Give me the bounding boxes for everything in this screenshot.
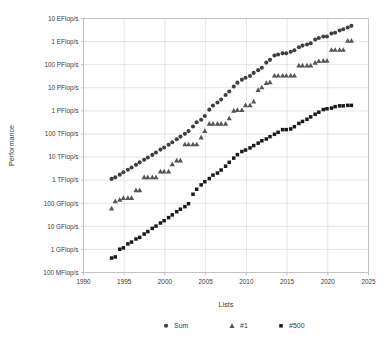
data-point [224, 93, 228, 97]
data-point [203, 180, 207, 184]
data-point [227, 89, 231, 93]
data-point [276, 131, 280, 135]
series-sum [110, 24, 354, 181]
data-point [349, 38, 354, 43]
data-point [113, 175, 117, 179]
data-point [219, 121, 224, 126]
data-point [252, 144, 256, 148]
data-point [243, 76, 247, 80]
data-point [118, 173, 122, 177]
data-point [297, 45, 301, 49]
data-point [240, 150, 244, 154]
y-tick-label: 10 PFlop/s [48, 84, 79, 92]
data-point [137, 188, 142, 193]
data-point [231, 108, 236, 113]
data-point [305, 42, 309, 46]
data-point [285, 128, 289, 131]
x-tick-label: 2020 [321, 278, 336, 285]
data-point [228, 161, 232, 165]
data-point [199, 135, 204, 140]
data-point [109, 206, 114, 211]
data-point [252, 71, 256, 75]
data-point [151, 227, 155, 231]
data-point [265, 137, 269, 141]
data-point [309, 115, 313, 119]
data-point [289, 50, 293, 54]
data-point [293, 125, 297, 128]
data-point [121, 195, 126, 200]
data-point [341, 47, 346, 52]
data-point [297, 122, 301, 126]
data-point [142, 232, 146, 236]
data-point [203, 114, 207, 118]
data-point [170, 162, 175, 167]
data-point [281, 128, 285, 131]
data-point [281, 51, 285, 55]
data-point [325, 107, 329, 111]
y-tick-label: 100 GFlop/s [44, 200, 79, 208]
data-point [211, 173, 215, 177]
data-point [236, 153, 240, 157]
data-point [154, 150, 158, 154]
data-point [292, 73, 297, 78]
data-point [305, 118, 309, 122]
x-tick-label: 2005 [199, 278, 214, 285]
data-point [341, 27, 345, 31]
data-point [219, 168, 223, 172]
y-tick-label: 10 GFlop/s [47, 223, 78, 231]
performance-development-chart: 100 MFlop/s1 GFlop/s10 GFlop/s100 GFlop/… [0, 0, 384, 342]
data-point [146, 230, 150, 234]
data-point [338, 104, 342, 108]
data-point [219, 97, 223, 101]
y-tick-label: 10 EFlop/s [48, 15, 79, 23]
legend-marker-num1 [229, 323, 234, 328]
data-point [256, 68, 260, 72]
legend-marker-sum [164, 324, 168, 328]
legend-label-num1: #1 [240, 322, 248, 329]
data-point [113, 198, 118, 203]
y-tick-label: 1 GFlop/s [51, 246, 79, 254]
data-point [183, 205, 187, 209]
x-tick-label: 2025 [361, 278, 376, 285]
data-point [349, 24, 353, 28]
data-point [284, 51, 288, 55]
data-point [321, 35, 325, 39]
data-point [208, 177, 212, 181]
data-point [134, 237, 138, 241]
data-point [276, 73, 281, 78]
data-point [166, 169, 171, 174]
data-point [150, 153, 154, 157]
legend: Sum#1#500 [164, 322, 305, 329]
data-point [256, 141, 260, 145]
data-point [273, 133, 277, 137]
legend-label-num500: #500 [289, 322, 305, 329]
data-point [154, 224, 158, 228]
gridlines-layer [84, 19, 369, 273]
data-point [224, 164, 228, 168]
x-tick-labels: 19901995200020052010201520202025 [76, 278, 376, 285]
data-point [158, 148, 162, 152]
data-point [211, 104, 215, 108]
data-point [260, 139, 264, 143]
data-point [267, 80, 272, 85]
data-point [333, 31, 337, 35]
data-point [239, 107, 244, 112]
legend-label-sum: Sum [174, 322, 189, 329]
data-point [195, 120, 199, 124]
data-point [251, 99, 256, 104]
data-point [259, 85, 264, 90]
data-point [121, 170, 125, 174]
series-layer [109, 24, 354, 260]
data-point [187, 202, 191, 206]
data-point [167, 143, 171, 147]
data-point [142, 158, 146, 162]
x-tick-label: 2000 [158, 278, 173, 285]
data-point [162, 145, 166, 149]
data-point [134, 163, 138, 167]
data-point [171, 213, 175, 217]
data-point [110, 177, 114, 181]
legend-marker-num500 [279, 324, 283, 328]
data-point [194, 142, 199, 147]
data-point [292, 48, 296, 52]
data-point [240, 78, 244, 82]
